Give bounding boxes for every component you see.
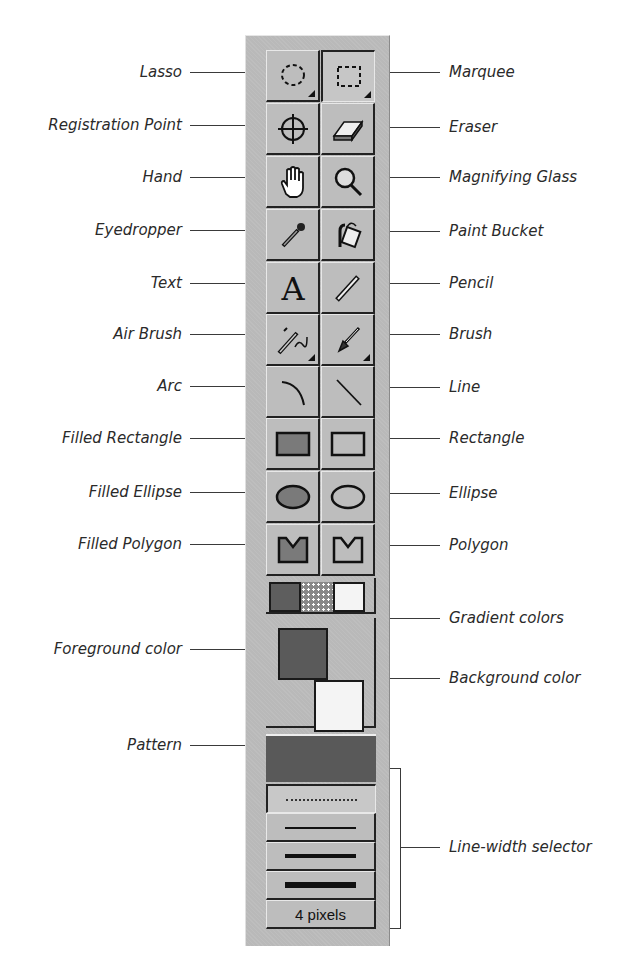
marquee-tool-button[interactable] (321, 50, 375, 102)
text-icon: A (276, 271, 310, 305)
text-tool-button[interactable]: A (266, 262, 320, 314)
line-sample-1 (285, 827, 356, 829)
lasso-tool-button[interactable] (266, 50, 320, 102)
label-polygon: Polygon (449, 536, 508, 554)
label-arc: Arc (157, 377, 182, 395)
polygon-icon (330, 534, 366, 566)
label-pencil: Pencil (449, 274, 493, 292)
pencil-icon (331, 271, 365, 305)
ellipse-icon (328, 482, 368, 512)
magnifying-glass-icon (331, 165, 365, 199)
line-width-current-value: 4 pixels (266, 900, 376, 929)
options-indicator-icon (364, 91, 371, 98)
line-tool-button[interactable] (321, 366, 375, 418)
line-width-option-3[interactable] (266, 871, 376, 900)
gradient-colors-row (266, 578, 376, 614)
label-brush: Brush (449, 325, 492, 343)
line-icon (331, 375, 365, 409)
label-filled-ellipse: Filled Ellipse (89, 483, 182, 501)
label-gradient-colors: Gradient colors (449, 609, 564, 627)
pattern-swatch[interactable] (266, 734, 376, 782)
color-swatches-area (266, 618, 376, 728)
magnifying-glass-tool-button[interactable] (321, 156, 375, 208)
label-background-color: Background color (449, 669, 581, 687)
polygon-tool-button[interactable] (321, 524, 375, 576)
svg-text:A: A (280, 271, 305, 305)
filled-ellipse-icon (273, 482, 313, 512)
label-eraser: Eraser (449, 118, 497, 136)
paint-bucket-icon (331, 217, 365, 253)
registration-point-tool-button[interactable] (266, 103, 320, 155)
label-magnifying-glass: Magnifying Glass (449, 168, 577, 186)
label-air-brush: Air Brush (113, 325, 182, 343)
filled-polygon-icon (275, 534, 311, 566)
eyedropper-tool-button[interactable] (266, 209, 320, 261)
line-width-selector: 4 pixels (266, 784, 376, 934)
label-rectangle: Rectangle (449, 429, 524, 447)
line-sample-3 (285, 882, 356, 888)
brush-icon (331, 323, 365, 357)
tools-palette: A (245, 35, 390, 946)
label-text: Text (151, 274, 182, 292)
filled-ellipse-tool-button[interactable] (266, 471, 320, 523)
ellipse-tool-button[interactable] (321, 471, 375, 523)
paint-bucket-tool-button[interactable] (321, 209, 375, 261)
rectangle-tool-button[interactable] (321, 418, 375, 470)
brush-tool-button[interactable] (321, 314, 375, 366)
rectangle-icon (328, 429, 368, 459)
eraser-tool-button[interactable] (321, 103, 375, 155)
filled-rectangle-tool-button[interactable] (266, 418, 320, 470)
hand-icon (276, 164, 310, 200)
eraser-icon (330, 114, 366, 144)
label-pattern: Pattern (127, 736, 182, 754)
line-sample-2 (285, 854, 356, 858)
label-ellipse: Ellipse (449, 484, 498, 502)
label-filled-rectangle: Filled Rectangle (62, 429, 182, 447)
label-eyedropper: Eyedropper (95, 221, 182, 239)
label-line-width-selector: Line-width selector (449, 838, 592, 856)
hand-tool-button[interactable] (266, 156, 320, 208)
lasso-icon (276, 61, 310, 91)
line-width-value-text: 4 pixels (267, 906, 374, 923)
pencil-tool-button[interactable] (321, 262, 375, 314)
registration-point-icon (275, 111, 311, 147)
label-hand: Hand (143, 168, 183, 186)
leader-line-width (400, 847, 440, 848)
label-line: Line (449, 378, 480, 396)
background-color-swatch[interactable] (314, 680, 364, 732)
options-indicator-icon (308, 354, 315, 361)
gradient-end-swatch[interactable] (333, 582, 365, 612)
filled-rectangle-icon (273, 429, 313, 459)
label-filled-polygon: Filled Polygon (78, 535, 182, 553)
bracket-vertical (400, 768, 401, 929)
marquee-icon (332, 62, 366, 92)
gradient-start-swatch[interactable] (269, 582, 301, 612)
eyedropper-icon (276, 218, 310, 252)
options-indicator-icon (363, 354, 370, 361)
air-brush-icon (275, 323, 311, 357)
label-foreground-color: Foreground color (54, 640, 182, 658)
filled-polygon-tool-button[interactable] (266, 524, 320, 576)
label-paint-bucket: Paint Bucket (449, 222, 543, 240)
line-width-option-dotted[interactable] (266, 784, 376, 813)
options-indicator-icon (308, 90, 315, 97)
arc-tool-button[interactable] (266, 366, 320, 418)
line-width-option-1[interactable] (266, 813, 376, 842)
label-marquee: Marquee (449, 63, 515, 81)
foreground-color-swatch[interactable] (278, 628, 328, 680)
label-registration-point: Registration Point (48, 116, 182, 134)
gradient-swap-swatch[interactable] (301, 582, 333, 612)
dotted-line-sample (286, 799, 357, 801)
arc-icon (276, 375, 310, 409)
label-lasso: Lasso (140, 63, 182, 81)
air-brush-tool-button[interactable] (266, 314, 320, 366)
line-width-option-2[interactable] (266, 842, 376, 871)
